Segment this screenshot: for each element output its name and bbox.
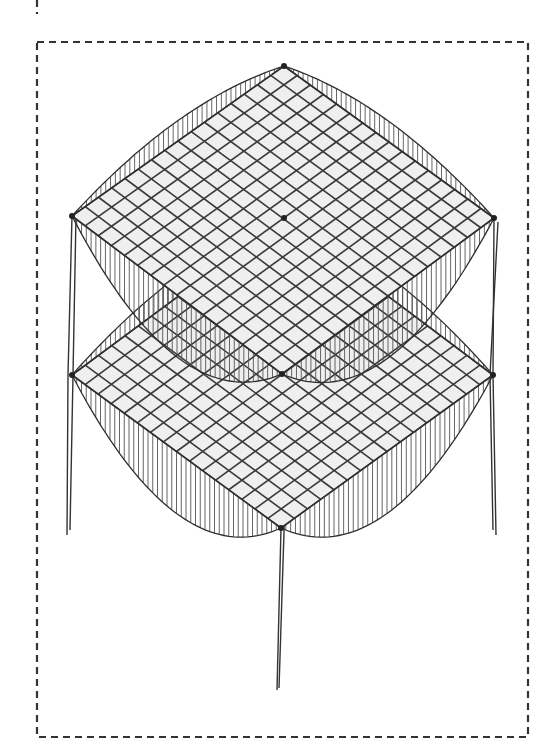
joint-node	[490, 372, 496, 378]
joint-node	[281, 63, 287, 69]
joint-node	[279, 371, 285, 377]
joint-node	[278, 525, 284, 531]
joint-node	[69, 213, 75, 219]
joint-node	[69, 372, 75, 378]
joint-node	[281, 215, 287, 221]
joint-node	[491, 215, 497, 221]
structural-diagram	[0, 0, 548, 749]
